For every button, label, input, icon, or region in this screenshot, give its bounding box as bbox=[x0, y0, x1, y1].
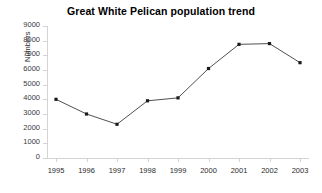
data-point-marker bbox=[237, 43, 240, 46]
plot-area: Numbers 01000200030004000500060007000800… bbox=[47, 26, 309, 158]
data-point-marker bbox=[54, 98, 57, 101]
y-tick-label: 5000 bbox=[23, 79, 40, 88]
y-tick-mark bbox=[43, 158, 47, 159]
data-series-line bbox=[47, 26, 309, 158]
y-tick-label: 7000 bbox=[23, 49, 40, 58]
x-tick-mark bbox=[117, 158, 118, 162]
x-tick-label: 2003 bbox=[282, 166, 318, 175]
data-point-marker bbox=[146, 99, 149, 102]
y-tick-label: 8000 bbox=[23, 35, 40, 44]
data-point-marker bbox=[298, 61, 301, 64]
y-tick-label: 0 bbox=[36, 152, 40, 161]
series-polyline bbox=[56, 44, 300, 125]
x-tick-mark bbox=[148, 158, 149, 162]
y-tick-label: 4000 bbox=[23, 93, 40, 102]
chart-title: Great White Pelican population trend bbox=[0, 5, 322, 17]
x-tick-mark bbox=[87, 158, 88, 162]
data-point-marker bbox=[85, 112, 88, 115]
y-tick-label: 1000 bbox=[23, 137, 40, 146]
y-tick-label: 3000 bbox=[23, 108, 40, 117]
x-tick-mark bbox=[178, 158, 179, 162]
y-tick-label: 9000 bbox=[23, 20, 40, 29]
x-tick-mark bbox=[209, 158, 210, 162]
x-tick-mark bbox=[300, 158, 301, 162]
x-tick-mark bbox=[239, 158, 240, 162]
data-point-marker bbox=[268, 42, 271, 45]
data-point-marker bbox=[176, 96, 179, 99]
y-tick-label: 2000 bbox=[23, 123, 40, 132]
x-tick-mark bbox=[270, 158, 271, 162]
x-tick-mark bbox=[56, 158, 57, 162]
data-point-marker bbox=[115, 123, 118, 126]
data-point-marker bbox=[207, 67, 210, 70]
y-tick-label: 6000 bbox=[23, 64, 40, 73]
chart-container: Great White Pelican population trend Num… bbox=[0, 0, 322, 193]
